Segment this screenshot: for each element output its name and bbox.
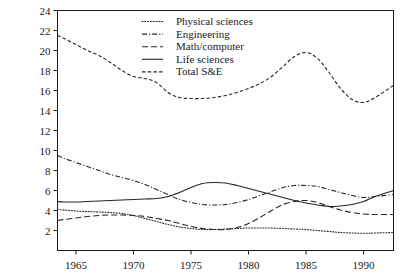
y-tick-label: 20 bbox=[40, 45, 52, 57]
y-tick-label: 24 bbox=[40, 5, 52, 17]
chart-canvas: 2468101214161820222419651970197519801985… bbox=[0, 0, 410, 279]
y-tick-label: 8 bbox=[45, 165, 51, 177]
x-tick-label: 1975 bbox=[180, 259, 203, 271]
x-tick-label: 1970 bbox=[122, 259, 145, 271]
legend-label-5: Total S&E bbox=[176, 65, 223, 77]
x-axis: 196519701975198019851990 bbox=[65, 251, 375, 271]
y-axis: 24681012141618202224 bbox=[40, 5, 58, 237]
legend-label-2: Engineering bbox=[176, 28, 230, 40]
y-tick-label: 18 bbox=[40, 65, 52, 77]
line-chart: 2468101214161820222419651970197519801985… bbox=[0, 0, 410, 279]
y-tick-label: 12 bbox=[40, 125, 51, 137]
y-tick-label: 22 bbox=[40, 25, 51, 37]
y-tick-label: 4 bbox=[45, 205, 51, 217]
legend-label-3: Math/computer bbox=[176, 40, 244, 52]
x-tick-label: 1985 bbox=[295, 259, 318, 271]
y-tick-label: 6 bbox=[45, 185, 51, 197]
legend-label-4: Life sciences bbox=[176, 53, 234, 65]
x-tick-label: 1990 bbox=[353, 259, 376, 271]
x-tick-label: 1980 bbox=[238, 259, 261, 271]
y-tick-label: 16 bbox=[40, 85, 52, 97]
y-tick-label: 2 bbox=[45, 225, 51, 237]
y-tick-label: 14 bbox=[40, 105, 52, 117]
legend-label-1: Physical sciences bbox=[176, 15, 253, 27]
x-tick-label: 1965 bbox=[65, 259, 88, 271]
y-tick-label: 10 bbox=[40, 145, 52, 157]
